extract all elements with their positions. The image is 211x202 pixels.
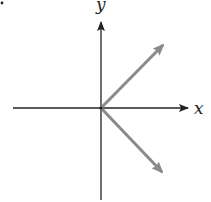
- origin-point: [99, 106, 102, 109]
- corner-dot: [1, 2, 4, 5]
- lower-right-vector: [101, 108, 162, 172]
- x-axis-label: x: [194, 98, 204, 118]
- vector-diagram: x y: [0, 0, 211, 202]
- upper-right-vector: [101, 45, 163, 108]
- y-axis-label: y: [95, 0, 106, 14]
